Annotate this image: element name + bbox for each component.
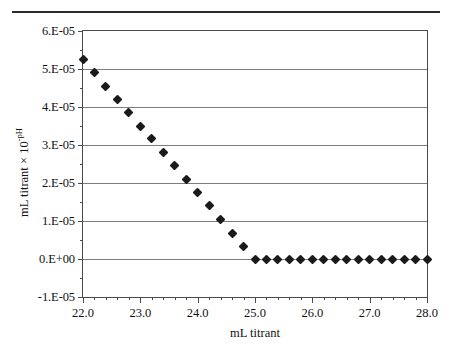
y-gridline <box>83 69 427 70</box>
y-axis-title-prefix: mL titrant × 10 <box>17 141 31 217</box>
x-axis-tick <box>427 297 428 303</box>
y-axis-minor-tick <box>80 278 83 279</box>
data-point <box>342 254 352 264</box>
x-axis-tick <box>312 297 313 303</box>
data-point <box>239 242 249 252</box>
data-point <box>330 254 340 264</box>
y-axis-tick <box>78 183 83 184</box>
x-axis-minor-tick <box>347 297 348 300</box>
x-axis-tick-label: 26.0 <box>301 306 323 321</box>
data-point <box>388 254 398 264</box>
y-axis-tick <box>78 69 83 70</box>
data-point <box>365 254 375 264</box>
y-axis-minor-tick <box>80 88 83 89</box>
data-point <box>262 254 272 264</box>
y-axis-tick-label: -1.E-05 <box>38 290 75 305</box>
x-axis-minor-tick <box>106 297 107 300</box>
x-axis-minor-tick <box>266 297 267 300</box>
data-point <box>135 121 145 131</box>
x-axis-minor-tick <box>358 297 359 300</box>
x-axis-minor-tick <box>244 297 245 300</box>
data-point <box>319 254 329 264</box>
x-axis-tick-label: 27.0 <box>359 306 381 321</box>
x-axis-minor-tick <box>393 297 394 300</box>
data-point <box>112 94 122 104</box>
x-axis-tick <box>198 297 199 303</box>
x-axis-minor-tick <box>404 297 405 300</box>
y-gridline <box>83 183 427 184</box>
x-axis-minor-tick <box>381 297 382 300</box>
data-point <box>399 254 409 264</box>
x-axis-minor-tick <box>175 297 176 300</box>
data-point <box>147 134 157 144</box>
x-axis-minor-tick <box>416 297 417 300</box>
x-axis-tick <box>255 297 256 303</box>
data-point <box>170 161 180 171</box>
x-axis-minor-tick <box>301 297 302 300</box>
x-axis-tick-label: 28.0 <box>416 306 438 321</box>
x-axis-minor-tick <box>129 297 130 300</box>
y-axis-tick-label: 6.E-05 <box>42 24 75 39</box>
x-axis-tick-label: 25.0 <box>244 306 266 321</box>
data-point <box>204 201 214 211</box>
data-point <box>353 254 363 264</box>
x-axis-minor-tick <box>278 297 279 300</box>
x-axis-minor-tick <box>232 297 233 300</box>
data-point <box>250 254 260 264</box>
y-axis-minor-tick <box>80 50 83 51</box>
data-point <box>422 254 432 264</box>
y-axis-title-exponent: -pH <box>14 128 24 141</box>
y-axis-tick-label: 5.E-05 <box>42 62 75 77</box>
data-point <box>158 147 168 157</box>
data-point <box>284 254 294 264</box>
y-axis-minor-tick <box>80 202 83 203</box>
x-axis-tick <box>370 297 371 303</box>
x-axis-tick-label: 24.0 <box>187 306 209 321</box>
x-axis-minor-tick <box>186 297 187 300</box>
plot-area: -1.E-050.E+001.E-052.E-053.E-054.E-055.E… <box>82 30 428 298</box>
x-axis-tick-label: 23.0 <box>129 306 151 321</box>
data-point <box>411 254 421 264</box>
y-axis-tick <box>78 107 83 108</box>
y-axis-minor-tick <box>80 126 83 127</box>
x-axis-minor-tick <box>209 297 210 300</box>
y-axis-tick-label: 4.E-05 <box>42 100 75 115</box>
y-axis-minor-tick <box>80 240 83 241</box>
x-axis-minor-tick <box>289 297 290 300</box>
data-point <box>124 107 134 117</box>
y-axis-tick-label: 0.E+00 <box>39 252 75 267</box>
x-axis-title: mL titrant <box>82 326 428 341</box>
header-rule <box>12 11 440 13</box>
x-axis-tick-label: 22.0 <box>72 306 94 321</box>
data-point <box>78 55 88 65</box>
x-axis-tick <box>140 297 141 303</box>
y-gridline <box>83 145 427 146</box>
y-axis-minor-tick <box>80 164 83 165</box>
data-point <box>273 254 283 264</box>
data-point <box>376 254 386 264</box>
data-point <box>296 254 306 264</box>
x-axis-minor-tick <box>335 297 336 300</box>
y-axis-tick-label: 3.E-05 <box>42 138 75 153</box>
data-point <box>307 254 317 264</box>
y-axis-tick-label: 2.E-05 <box>42 176 75 191</box>
data-point <box>101 81 111 91</box>
y-axis-tick <box>78 259 83 260</box>
data-point <box>193 188 203 198</box>
y-gridline <box>83 107 427 108</box>
data-point <box>227 228 237 238</box>
y-gridline <box>83 221 427 222</box>
chart-figure: -1.E-050.E+001.E-052.E-053.E-054.E-055.E… <box>0 0 454 355</box>
x-axis-minor-tick <box>221 297 222 300</box>
x-axis-tick <box>83 297 84 303</box>
data-point <box>216 215 226 225</box>
y-axis-tick <box>78 31 83 32</box>
x-axis-minor-tick <box>117 297 118 300</box>
x-axis-minor-tick <box>163 297 164 300</box>
y-axis-tick <box>78 221 83 222</box>
y-axis-tick <box>78 145 83 146</box>
x-axis-minor-tick <box>152 297 153 300</box>
y-axis-title: mL titrant × 10-pH <box>14 88 31 258</box>
x-axis-minor-tick <box>94 297 95 300</box>
x-axis-minor-tick <box>324 297 325 300</box>
